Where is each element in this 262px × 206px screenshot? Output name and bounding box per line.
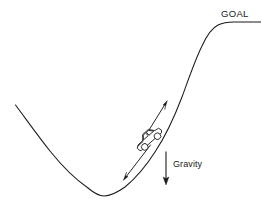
hill-curve-icon: [16, 22, 262, 196]
goal-label: GOAL: [221, 8, 249, 19]
mountain-car-figure: GOAL Gravity: [0, 0, 261, 206]
car-icon: [133, 123, 165, 153]
figure-canvas: [0, 0, 261, 206]
downhill-arrow-head-icon: [123, 172, 128, 180]
gravity-label: Gravity: [173, 159, 202, 169]
uphill-arrow-head-icon: [163, 101, 167, 110]
gravity-arrow: [163, 152, 169, 186]
terrain-group: [16, 22, 262, 196]
